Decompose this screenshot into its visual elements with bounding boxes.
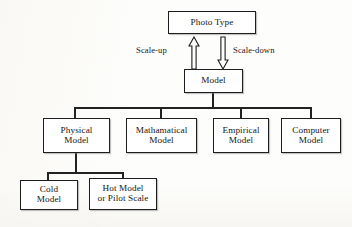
edge-branch-bus-main — [74, 107, 311, 109]
node-empirical-model-label: Empirical Model — [220, 126, 261, 146]
diagram-canvas: Scale-up Scale-down Photo Type Model Phy… — [0, 0, 352, 227]
node-hot-model: Hot Model or Pilot Scale — [89, 178, 157, 210]
node-photo-type: Photo Type — [168, 11, 256, 34]
node-model-label: Model — [199, 76, 228, 86]
scale-up-label: Scale-up — [136, 45, 167, 55]
node-physical-model: Physical Model — [43, 118, 110, 153]
node-photo-type-label: Photo Type — [189, 18, 236, 28]
edge-branch-bus-lower — [47, 172, 123, 174]
block-arrow-down-icon — [217, 36, 229, 70]
node-empirical-model: Empirical Model — [213, 118, 269, 153]
node-model: Model — [184, 69, 243, 93]
edge-physical-model-to-lower-bus — [75, 153, 77, 173]
scale-down-label: Scale-down — [233, 45, 275, 55]
node-computer-model: Computer Model — [281, 118, 341, 153]
node-mathematical-model-label: Mathamatical Model — [134, 126, 190, 146]
node-cold-model-label: Cold Model — [35, 185, 64, 205]
node-mathematical-model: Mathamatical Model — [126, 118, 197, 153]
node-physical-model-label: Physical Model — [59, 126, 95, 146]
block-arrow-up-icon — [188, 36, 200, 70]
node-hot-model-label: Hot Model or Pilot Scale — [96, 184, 151, 204]
node-cold-model: Cold Model — [20, 180, 78, 210]
node-computer-model-label: Computer Model — [290, 126, 332, 146]
